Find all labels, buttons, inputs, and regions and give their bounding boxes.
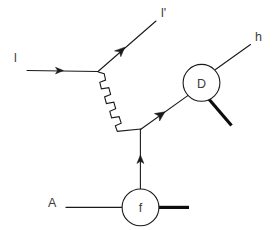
hadron-line bbox=[216, 45, 251, 70]
label-hadron: h bbox=[255, 30, 262, 44]
feynman-diagram-svg: l l' h A D f bbox=[0, 0, 278, 230]
quark-line-arrow-icon bbox=[154, 112, 165, 121]
label-incoming-lepton: l bbox=[14, 51, 17, 65]
outgoing-lepton-line bbox=[98, 21, 156, 72]
label-outgoing-lepton: l' bbox=[161, 6, 166, 20]
feynman-diagram-canvas: l l' h A D f bbox=[0, 0, 278, 230]
d-decay-thick-line bbox=[208, 98, 232, 126]
label-decay-blob: D bbox=[197, 77, 206, 91]
label-nucleus: A bbox=[48, 196, 57, 210]
virtual-photon-wavy-line bbox=[98, 72, 141, 131]
label-fragmentation-blob: f bbox=[139, 201, 143, 215]
